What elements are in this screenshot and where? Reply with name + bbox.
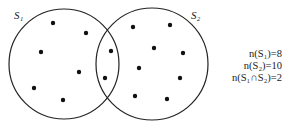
venn-diagram: S₁ S₂ n(S₁)=8 n(S₂)=10 n(S₁∩S₂)=2 — [0, 0, 287, 127]
s2-only-elements — [131, 23, 185, 101]
equation-n-s2: n(S₂)=10 — [214, 60, 282, 72]
equation-n-intersection: n(S₁∩S₂)=2 — [214, 72, 282, 84]
s1-only-elements — [32, 21, 88, 102]
equation-n-s1: n(S₁)=8 — [214, 48, 282, 60]
intersection-elements — [103, 49, 113, 80]
cardinality-equations: n(S₁)=8 n(S₂)=10 n(S₁∩S₂)=2 — [214, 48, 282, 84]
set-s2-circle — [96, 8, 208, 120]
set-s2-label: S₂ — [191, 9, 200, 21]
set-s1-circle — [9, 9, 119, 119]
set-s1-label: S₁ — [14, 9, 23, 21]
